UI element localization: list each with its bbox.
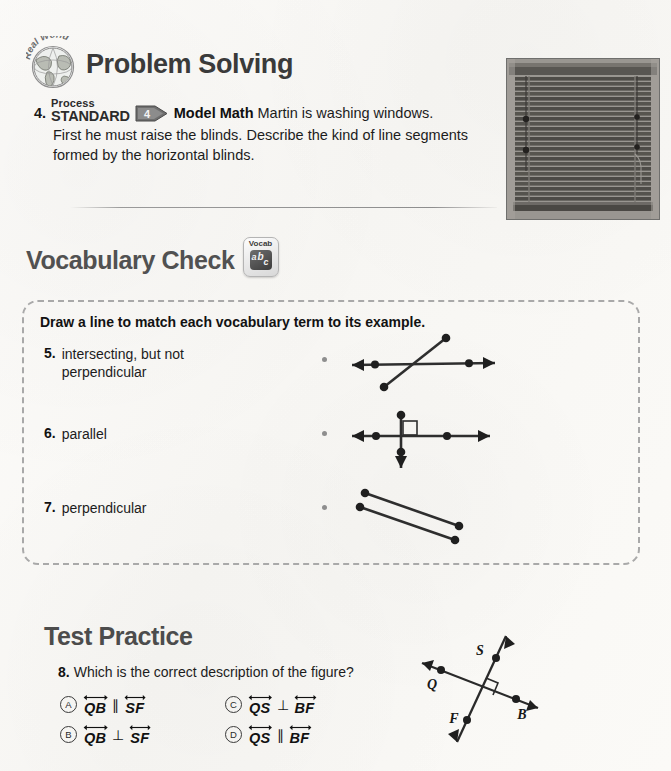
standard-arrow-badge-icon: 4 — [135, 103, 168, 124]
perpendicular-lines-figure — [335, 402, 510, 484]
vocab-abc-tile: a b c — [250, 250, 272, 270]
choice-b-letter: B — [60, 726, 77, 743]
choice-d-expression: QS ∥ BF — [249, 724, 310, 746]
vocab-badge-icon: Vocab a b c — [243, 237, 279, 277]
figure-label-f: F — [448, 711, 459, 726]
problem-4: 4. Process STANDARD 4 Model Math Martin … — [34, 98, 504, 166]
standard-label: STANDARD — [51, 109, 130, 124]
section-divider — [70, 207, 497, 208]
choice-a[interactable]: A QB ∥ SF — [60, 694, 145, 716]
vocabulary-check-title: Vocabulary Check — [26, 246, 235, 275]
choice-a-relation: ∥ — [112, 697, 119, 713]
vocab-badge-label: Vocab — [249, 240, 272, 248]
globe-real-world-icon: Real World — [26, 36, 84, 92]
vocab-item-6-term: parallel — [62, 425, 107, 443]
skill-label: Model Math — [174, 105, 254, 123]
match-instruction: Draw a line to match each vocabulary ter… — [40, 314, 425, 330]
choice-c-expression: QS ⊥ BF — [249, 694, 315, 716]
parallel-segments-figure — [335, 482, 510, 554]
vocab-item-6-number: 6. — [44, 425, 56, 441]
right-angle-marker — [403, 421, 417, 435]
choice-c[interactable]: C QS ⊥ BF — [225, 694, 315, 716]
standard-arrow-number: 4 — [144, 108, 151, 120]
question-number: 8. — [58, 664, 70, 680]
vocab-item-5-connector-dot[interactable] — [322, 357, 327, 362]
line-notation-qs: QS — [249, 694, 271, 716]
vocab-item-6[interactable]: 6. parallel — [44, 425, 334, 443]
choice-a-letter: A — [60, 696, 77, 713]
vocab-item-7-number: 7. — [44, 499, 56, 515]
process-standard-label: Process STANDARD — [51, 98, 130, 124]
problem-text-rest: First he must raise the blinds. Describe… — [34, 125, 504, 166]
figure-label-b: B — [516, 707, 526, 722]
choice-c-letter: C — [225, 696, 242, 713]
test-practice-question: 8.Which is the correct description of th… — [58, 664, 354, 680]
choice-b-relation: ⊥ — [112, 727, 124, 743]
vocab-item-6-connector-dot[interactable] — [322, 431, 327, 436]
choice-a-expression: QB ∥ SF — [84, 694, 145, 716]
vocabulary-check-header: Vocabulary Check Vocab a b c — [26, 243, 279, 277]
line-notation-qb: QB — [84, 694, 106, 716]
figure-label-s: S — [476, 643, 484, 658]
choice-b-expression: QB ⊥ SF — [84, 724, 150, 746]
page-title: Problem Solving — [86, 49, 293, 80]
vocab-item-7-term: perpendicular — [62, 499, 147, 517]
question-text: Which is the correct description of the … — [74, 664, 354, 680]
problem-text-first-line: Martin is washing windows. — [258, 105, 434, 123]
choice-d[interactable]: D QS ∥ BF — [225, 724, 310, 746]
vocab-item-5-number: 5. — [44, 345, 56, 361]
textbook-page: Real World Problem Solving 4. Process ST… — [0, 0, 671, 771]
line-notation-bf: BF — [290, 724, 310, 746]
vocab-item-7-connector-dot[interactable] — [322, 505, 327, 510]
line-notation-bf: BF — [295, 694, 315, 716]
line-notation-sf: SF — [130, 724, 149, 746]
vocab-item-7[interactable]: 7. perpendicular — [44, 499, 334, 517]
vocab-letter-c: c — [264, 258, 269, 267]
vocab-item-5-term: intersecting, but not perpendicular — [62, 345, 184, 382]
line-notation-sf: SF — [125, 694, 144, 716]
choice-d-letter: D — [225, 726, 242, 743]
problem-solving-header: Real World Problem Solving — [26, 36, 293, 92]
window-blinds-photo — [506, 58, 660, 220]
test-practice-title: Test Practice — [44, 622, 193, 651]
choice-b[interactable]: B QB ⊥ SF — [60, 724, 150, 746]
vocab-letter-a: a — [252, 253, 257, 262]
line-notation-qb: QB — [84, 724, 106, 746]
line-notation-qs: QS — [249, 724, 271, 746]
vocab-item-5[interactable]: 5. intersecting, but not perpendicular — [44, 345, 334, 382]
choice-c-relation: ⊥ — [277, 697, 289, 713]
intersecting-non-perpendicular-figure — [335, 330, 510, 402]
perpendicular-lines-QSBF-figure: S Q F B — [400, 622, 575, 770]
choice-d-relation: ∥ — [277, 727, 284, 743]
figure-label-q: Q — [427, 677, 437, 692]
problem-number: 4. — [34, 105, 46, 123]
